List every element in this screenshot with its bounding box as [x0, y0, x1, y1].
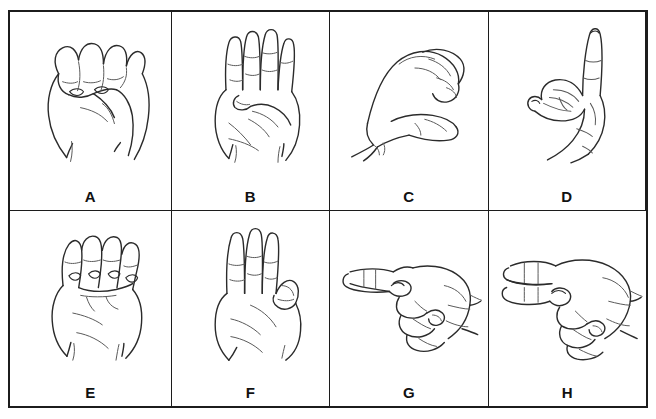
chart-cell-e[interactable]: E	[10, 211, 172, 406]
chart-cell-h[interactable]: H	[489, 211, 646, 406]
sign-label-a: A	[10, 189, 171, 204]
chart-cell-d[interactable]: D	[489, 12, 646, 211]
asl-hand-sign-b-icon	[172, 12, 329, 166]
asl-hand-sign-f-icon	[172, 211, 329, 363]
chart-cell-g[interactable]: G	[330, 211, 489, 406]
sign-label-g: G	[330, 385, 488, 400]
asl-hand-sign-h-icon	[489, 211, 646, 363]
chart-cell-c[interactable]: C	[330, 12, 489, 211]
sign-label-e: E	[10, 385, 171, 400]
asl-hand-sign-e-icon	[10, 211, 171, 363]
asl-hand-sign-g-icon	[330, 211, 488, 363]
asl-hand-sign-d-icon	[489, 12, 645, 166]
chart-cell-a[interactable]: A	[10, 12, 172, 211]
sign-label-b: B	[172, 189, 329, 204]
asl-hand-sign-c-icon	[330, 12, 488, 166]
chart-grid: A	[8, 10, 648, 408]
asl-hand-sign-a-icon	[10, 12, 171, 166]
sign-label-d: D	[489, 189, 645, 204]
sign-label-h: H	[489, 385, 646, 400]
sign-label-c: C	[330, 189, 488, 204]
asl-alphabet-chart: A	[0, 0, 656, 419]
chart-cell-f[interactable]: F	[172, 211, 330, 406]
sign-label-f: F	[172, 385, 329, 400]
chart-cell-b[interactable]: B	[172, 12, 330, 211]
